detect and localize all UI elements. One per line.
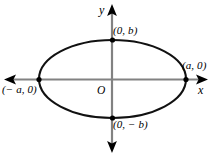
x-axis-label: x [198, 85, 203, 96]
ellipse-diagram-canvas [0, 0, 213, 158]
origin-label: O [97, 85, 105, 96]
vertex-dot-left [36, 77, 41, 82]
right-vertex-label: (a, 0) [182, 60, 206, 71]
bottom-vertex-label: (0, − b) [113, 119, 148, 130]
top-vertex-label: (0, b) [113, 25, 137, 36]
vertex-dot-right [183, 77, 188, 82]
ellipse-figure: y x (0, b) (0, − b) (a, 0) (− a, 0) O [0, 0, 213, 158]
left-vertex-label: (− a, 0) [2, 84, 37, 95]
y-axis-label: y [99, 5, 104, 16]
vertex-dot-top [110, 37, 115, 42]
